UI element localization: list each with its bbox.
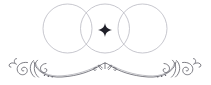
right-dot-1 bbox=[165, 74, 167, 76]
left-dot-2 bbox=[48, 76, 49, 77]
right-dot-2 bbox=[161, 76, 162, 77]
right-dot-3 bbox=[157, 76, 158, 77]
left-dot-1 bbox=[44, 74, 46, 76]
left-dot-3 bbox=[52, 76, 53, 77]
ornament-svg bbox=[0, 0, 211, 85]
ornament-canvas: Decorative Venn Circles With Flourish Di… bbox=[0, 0, 211, 85]
